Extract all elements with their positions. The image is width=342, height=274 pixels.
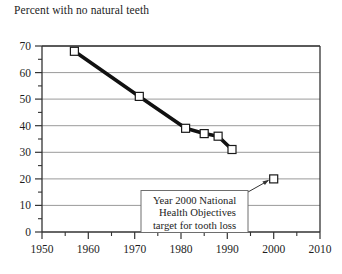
x-tick-label: 2010 [309, 243, 332, 255]
y-tick-label: 20 [20, 173, 32, 185]
y-tick-label: 40 [20, 120, 32, 132]
data-point-marker [182, 124, 190, 132]
data-point-marker [228, 146, 236, 154]
x-axis-major-ticks [42, 232, 320, 239]
chart-plot-area: 70 60 50 40 30 20 10 0 1950 [0, 0, 342, 274]
x-tick-label: 1950 [31, 243, 54, 255]
x-tick-label: 2000 [262, 243, 285, 255]
data-point-marker [135, 92, 143, 100]
y-tick-label: 50 [20, 93, 32, 105]
data-series-markers [70, 47, 236, 153]
annotation-line-1: Year 2000 National [153, 194, 236, 206]
y-tick-label: 10 [20, 199, 32, 211]
target-point-marker [270, 175, 278, 183]
x-axis-tick-labels: 1950 1960 1970 1980 1990 2000 2010 [31, 243, 332, 255]
annotation-leader-arrow [262, 180, 269, 185]
x-tick-label: 1990 [216, 243, 239, 255]
chart-container: Percent with no natural teeth [0, 0, 342, 274]
y-tick-label: 60 [20, 67, 32, 79]
y-tick-label: 30 [20, 146, 32, 158]
x-tick-label: 1980 [170, 243, 193, 255]
x-tick-label: 1960 [77, 243, 100, 255]
data-point-marker [214, 132, 222, 140]
data-point-marker [200, 130, 208, 138]
annotation-line-3: target for tooth loss [153, 219, 236, 231]
y-axis-tick-labels: 70 60 50 40 30 20 10 0 [20, 40, 32, 238]
annotation-callout: Year 2000 National Health Objectives tar… [141, 191, 248, 233]
y-tick-label: 0 [25, 226, 31, 238]
data-point-marker [70, 47, 78, 55]
y-tick-label: 70 [20, 40, 32, 52]
annotation-line-2: Health Objectives [159, 206, 236, 218]
x-tick-label: 1970 [123, 243, 146, 255]
